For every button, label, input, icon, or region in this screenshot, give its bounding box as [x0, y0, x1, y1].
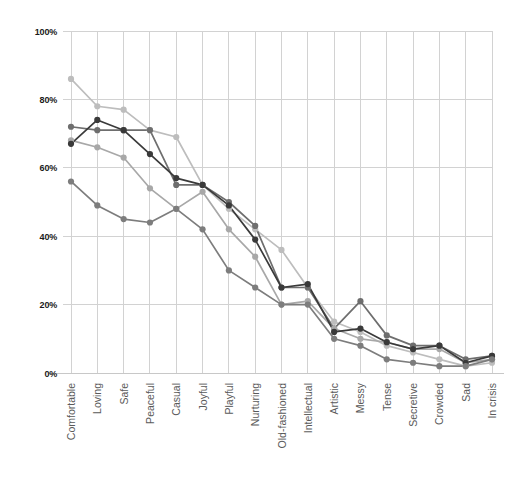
x-tick-label-comfortable: Comfortable	[65, 383, 77, 440]
data-point	[252, 284, 258, 290]
data-point	[199, 226, 205, 232]
data-point	[331, 329, 337, 335]
data-point	[489, 356, 495, 362]
data-point	[68, 178, 74, 184]
data-point	[147, 185, 153, 191]
data-point	[357, 343, 363, 349]
data-point	[252, 223, 258, 229]
data-point	[305, 281, 311, 287]
x-tick-label-crowded: Crowded	[433, 383, 445, 425]
x-tick-label-tense: Tense	[381, 383, 393, 411]
x-tick-label-intellectual: Intellectual	[302, 383, 314, 433]
horizontal-gridlines	[63, 31, 493, 305]
data-point	[173, 206, 179, 212]
data-point	[384, 332, 390, 338]
line-chart: 0%20%40%60%80%100% ComfortableLovingSafe…	[0, 0, 531, 486]
data-point	[384, 339, 390, 345]
x-tick-label-artistic: Artistic	[328, 383, 340, 415]
x-tick-label-peaceful: Peaceful	[144, 383, 156, 424]
data-point	[331, 319, 337, 325]
data-point	[410, 360, 416, 366]
data-point	[94, 127, 100, 133]
data-point	[147, 127, 153, 133]
x-tick-label-sad: Sad	[460, 383, 472, 402]
x-tick-label-casual: Casual	[170, 383, 182, 416]
data-point	[305, 302, 311, 308]
data-point	[278, 302, 284, 308]
data-point	[278, 247, 284, 253]
y-tick-labels: 0%20%40%60%80%100%	[35, 27, 57, 379]
data-point	[410, 346, 416, 352]
data-point	[357, 325, 363, 331]
y-tick-label-40: 40%	[40, 232, 58, 242]
data-point	[173, 134, 179, 140]
data-point	[147, 219, 153, 225]
x-tick-label-safe: Safe	[118, 383, 130, 405]
data-point	[199, 189, 205, 195]
data-point	[331, 336, 337, 342]
x-tick-label-loving: Loving	[91, 383, 103, 414]
x-tick-label-playful: Playful	[223, 383, 235, 415]
x-tick-label-nurturing: Nurturing	[249, 383, 261, 426]
x-tick-label-messy: Messy	[354, 382, 366, 413]
data-point	[147, 151, 153, 157]
data-point	[226, 226, 232, 232]
data-point	[252, 254, 258, 260]
data-point	[436, 356, 442, 362]
x-tick-label-secretive: Secretive	[407, 383, 419, 427]
y-tick-label-100: 100%	[35, 27, 57, 37]
data-point	[121, 107, 127, 113]
data-point	[94, 144, 100, 150]
data-point	[121, 216, 127, 222]
data-point	[384, 356, 390, 362]
data-point	[68, 124, 74, 130]
data-point	[226, 202, 232, 208]
data-point	[199, 182, 205, 188]
data-point	[94, 103, 100, 109]
data-point	[68, 76, 74, 82]
data-point	[173, 175, 179, 181]
data-point	[436, 363, 442, 369]
y-tick-label-0: 0%	[44, 369, 57, 379]
data-point	[463, 363, 469, 369]
data-point	[173, 182, 179, 188]
x-tick-label-old-fashioned: Old-fashioned	[276, 383, 288, 449]
chart-canvas: 0%20%40%60%80%100% ComfortableLovingSafe…	[0, 0, 531, 486]
x-tick-label-in-crisis: In crisis	[486, 383, 498, 419]
data-point	[94, 117, 100, 123]
y-tick-label-80: 80%	[40, 95, 58, 105]
data-point	[357, 336, 363, 342]
x-tick-labels: ComfortableLovingSafePeacefulCasualJoyfu…	[65, 382, 498, 448]
data-point	[436, 343, 442, 349]
data-point	[121, 154, 127, 160]
vertical-gridlines	[71, 31, 492, 373]
data-point	[252, 237, 258, 243]
data-point	[278, 284, 284, 290]
data-point	[68, 141, 74, 147]
y-tick-label-20: 20%	[40, 300, 58, 310]
data-point	[226, 267, 232, 273]
data-point	[357, 298, 363, 304]
data-point	[121, 127, 127, 133]
y-tick-label-60: 60%	[40, 163, 58, 173]
x-tick-label-joyful: Joyful	[197, 383, 209, 410]
data-point	[94, 202, 100, 208]
